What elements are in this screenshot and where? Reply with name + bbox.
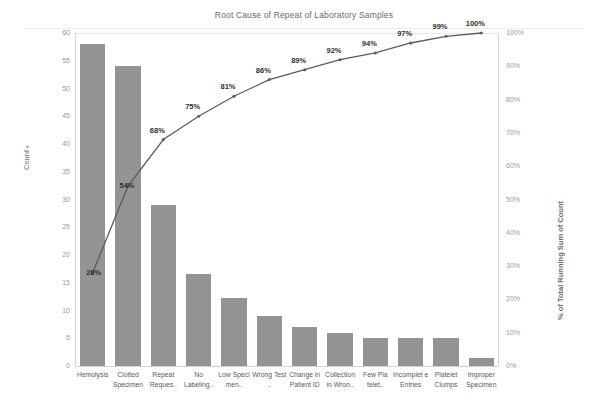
y-axis-right: 100%90%80%70%60%50%40%30%20%10%0% [506, 0, 540, 411]
y-axis-right-tick: 60% [506, 162, 520, 170]
cumulative-line-series [75, 33, 499, 366]
x-axis-label[interactable]: Wrong Test .. [252, 370, 287, 389]
y-axis-right-tick: 70% [506, 129, 520, 137]
x-axis-categories: HemolysisClotted SpecimenRepeat Reques..… [75, 370, 499, 411]
x-axis-label[interactable]: No Labeling.. [181, 370, 216, 389]
line-marker[interactable] [445, 35, 448, 38]
x-axis-label[interactable]: Incomplet e Entries [393, 370, 428, 389]
x-axis-label[interactable]: Change in Patient ID [287, 370, 322, 389]
x-axis-label[interactable]: Clotted Specimen [110, 370, 145, 389]
percent-label: 28% [86, 268, 101, 277]
x-axis-label[interactable]: Few Pla telet.. [358, 370, 393, 389]
x-axis-label[interactable]: Low Speci men.. [216, 370, 251, 389]
pareto-chart: Root Cause of Repeat of Laboratory Sampl… [0, 0, 608, 411]
cumulative-line [93, 33, 482, 273]
y-axis-right-tick: 0% [506, 362, 516, 370]
line-marker[interactable] [374, 51, 377, 54]
y-axis-left-tick: 15 [62, 279, 70, 287]
top-divider [24, 28, 584, 29]
x-axis-label[interactable]: Improper Specimen [464, 370, 499, 389]
y-axis-left-tick: 55 [62, 57, 70, 65]
line-marker[interactable] [480, 32, 483, 35]
y-axis-right-tick: 40% [506, 229, 520, 237]
percent-label: 75% [185, 102, 200, 111]
percent-label: 89% [291, 56, 306, 65]
y-axis-right-title: % of Total Running Sum of Count [556, 201, 565, 320]
y-axis-right-tick: 20% [506, 295, 520, 303]
line-marker[interactable] [303, 68, 306, 71]
y-axis-left-tick: 40 [62, 140, 70, 148]
percent-label: 97% [397, 29, 412, 38]
y-axis-right-tick: 90% [506, 62, 520, 70]
y-axis-right-tick: 10% [506, 329, 520, 337]
y-axis-left-tick: 30 [62, 196, 70, 204]
y-axis-right-tick: 80% [506, 96, 520, 104]
x-axis-label[interactable]: Repeat Reques.. [146, 370, 181, 389]
y-axis-right-tick: 30% [506, 262, 520, 270]
line-marker[interactable] [409, 41, 412, 44]
y-axis-left-title: Count▾ [22, 145, 31, 170]
y-axis-left-tick: 10 [62, 307, 70, 315]
y-axis-left-tick: 25 [62, 223, 70, 231]
x-axis-label[interactable]: Collection in Wron.. [322, 370, 357, 389]
percent-label: 92% [326, 46, 341, 55]
percent-label: 94% [362, 39, 377, 48]
percent-label: 99% [432, 22, 447, 31]
percent-label: 54% [119, 181, 134, 190]
line-marker[interactable] [162, 138, 165, 141]
y-axis-left: 605550454035302520151050 [44, 0, 70, 411]
line-marker[interactable] [197, 115, 200, 118]
percent-label: 68% [150, 126, 165, 135]
sort-descending-icon[interactable]: ▾ [26, 143, 29, 150]
line-marker[interactable] [233, 95, 236, 98]
y-axis-right-tick: 100% [506, 29, 524, 37]
y-axis-left-tick: 35 [62, 168, 70, 176]
y-axis-left-title-text: Count [22, 150, 31, 170]
line-marker[interactable] [268, 78, 271, 81]
x-axis-label[interactable]: Platelet Clumps [428, 370, 463, 389]
line-marker[interactable] [339, 58, 342, 61]
y-axis-left-tick: 0 [66, 362, 70, 370]
plot-bottom-border [75, 366, 499, 367]
y-axis-left-tick: 5 [66, 334, 70, 342]
percent-label: 81% [220, 82, 235, 91]
y-axis-left-tick: 20 [62, 251, 70, 259]
percent-label: 100% [466, 19, 485, 28]
x-axis-label[interactable]: Hemolysis [75, 370, 110, 380]
y-axis-left-tick: 60 [62, 29, 70, 37]
y-axis-left-tick: 50 [62, 85, 70, 93]
y-axis-left-tick: 45 [62, 112, 70, 120]
y-axis-right-tick: 50% [506, 196, 520, 204]
percent-label: 86% [256, 66, 271, 75]
